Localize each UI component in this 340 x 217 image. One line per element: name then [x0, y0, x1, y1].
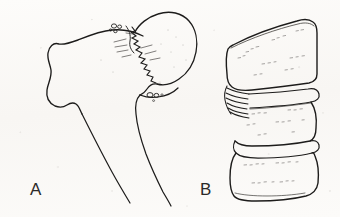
- fracture-hatch-marks: [114, 33, 160, 60]
- illustration-svg: [0, 0, 340, 217]
- vertebra-disc-space-upper: [249, 89, 319, 108]
- femoral-head-outline: [135, 12, 197, 85]
- panel-b-vertebrae: [225, 20, 320, 201]
- femur-greater-trochanter-outline: [47, 30, 143, 114]
- femoral-neck-fracture-line: [131, 27, 156, 83]
- vertebra-disc-space-lower: [234, 141, 320, 158]
- vertebra-lower-inferior-endplate: [235, 193, 305, 196]
- figure-canvas: A B: [0, 0, 340, 217]
- panel-a-femur: [47, 12, 197, 206]
- panel-label-b: B: [200, 181, 212, 198]
- femur-pore-cluster-superior: [109, 24, 121, 33]
- vertebra-upper-body-outline: [226, 20, 317, 91]
- vertebra-upper-superior-endplate: [231, 23, 314, 48]
- femur-shaft-lateral-line: [82, 114, 130, 203]
- femur-medial-cortex-line: [136, 95, 171, 206]
- vertebra-lower-body-outline: [230, 153, 318, 201]
- panel-label-a: A: [30, 181, 42, 198]
